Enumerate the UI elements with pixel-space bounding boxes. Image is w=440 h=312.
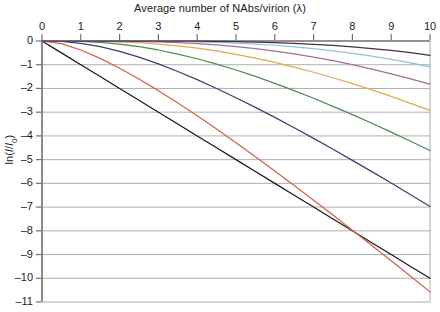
y-tick-label: –3 [5,105,33,117]
chart-figure: Average number of NAbs/virion (λ) ln(I/I… [0,0,440,312]
y-tick-label: –10 [5,271,33,283]
x-tick-label: 0 [32,20,52,32]
x-tick-label: 4 [187,20,207,32]
plot-area [0,0,440,312]
x-tick-label: 5 [226,20,246,32]
x-tick-label: 9 [381,20,401,32]
x-tick-label: 7 [304,20,324,32]
y-tick-label: –6 [5,176,33,188]
y-tick-label: –9 [5,248,33,260]
x-tick-label: 2 [110,20,130,32]
y-tick-label: –1 [5,58,33,70]
y-tick-label: –7 [5,200,33,212]
y-tick-marks [36,41,41,302]
y-tick-label: –5 [5,153,33,165]
y-tick-label: –8 [5,224,33,236]
y-tick-label: 0 [5,34,33,46]
y-tick-label: –2 [5,81,33,93]
x-tick-label: 8 [342,20,362,32]
x-tick-label: 10 [420,20,440,32]
y-tick-label: –4 [5,129,33,141]
x-tick-label: 3 [148,20,168,32]
x-tick-marks [42,34,430,40]
x-tick-label: 1 [71,20,91,32]
y-tick-label: –11 [5,295,33,307]
x-tick-label: 6 [265,20,285,32]
